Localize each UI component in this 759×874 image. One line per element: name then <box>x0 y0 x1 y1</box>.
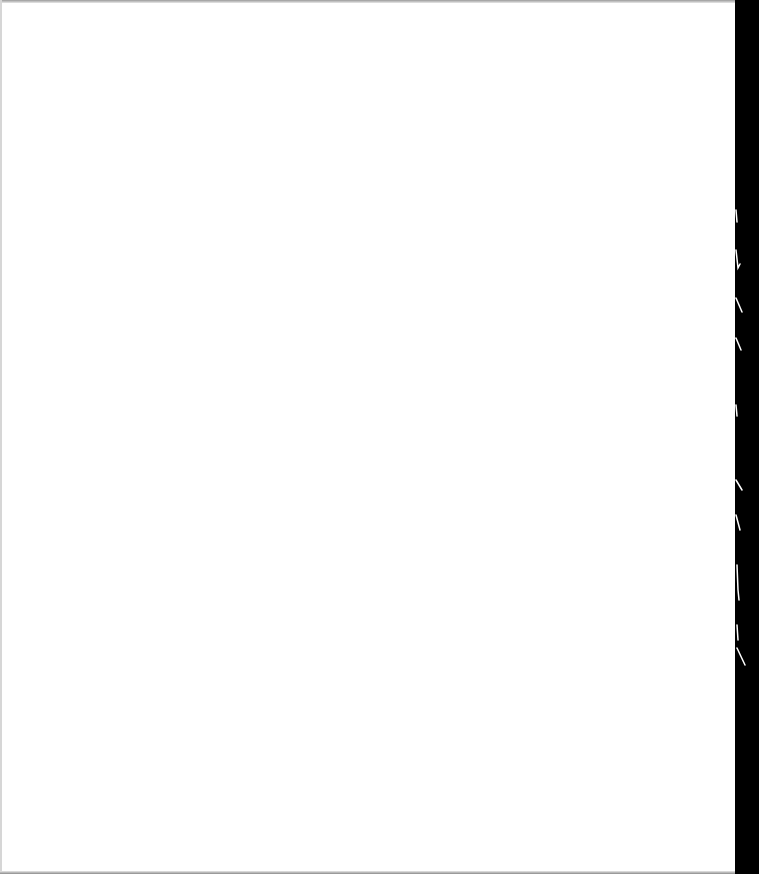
document-page <box>0 0 737 874</box>
scan-top-border <box>0 0 737 3</box>
paper-tear-marks <box>729 0 759 874</box>
scan-left-border <box>0 0 2 874</box>
binding-edge <box>735 0 759 874</box>
